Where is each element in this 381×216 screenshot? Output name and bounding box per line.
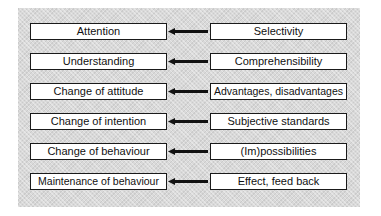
stage-box: Change of intention — [30, 113, 167, 130]
arrow-left-icon — [168, 58, 208, 65]
factor-box: Selectivity — [210, 23, 347, 40]
diagram-row-attitude: Change of attitude Advantages, disadvant… — [0, 83, 381, 100]
factor-box: Advantages, disadvantages — [210, 83, 347, 100]
stage-box: Understanding — [30, 53, 167, 70]
diagram-row-understanding: Understanding Comprehensibility — [0, 53, 381, 70]
factor-box: (Im)possibilities — [210, 143, 347, 160]
stage-box: Change of behaviour — [30, 143, 167, 160]
stage-box: Attention — [30, 23, 167, 40]
factor-box: Subjective standards — [210, 113, 347, 130]
arrow-left-icon — [168, 118, 208, 125]
arrow-left-icon — [168, 28, 208, 35]
stage-box: Maintenance of behaviour — [30, 173, 167, 190]
factor-box: Comprehensibility — [210, 53, 347, 70]
diagram-row-maintenance: Maintenance of behaviour Effect, feed ba… — [0, 173, 381, 190]
diagram-row-intention: Change of intention Subjective standards — [0, 113, 381, 130]
arrow-left-icon — [168, 148, 208, 155]
arrow-left-icon — [168, 88, 208, 95]
arrow-left-icon — [168, 178, 208, 185]
diagram-row-behaviour: Change of behaviour (Im)possibilities — [0, 143, 381, 160]
stage-box: Change of attitude — [30, 83, 167, 100]
diagram-row-attention: Attention Selectivity — [0, 23, 381, 40]
factor-box: Effect, feed back — [210, 173, 347, 190]
